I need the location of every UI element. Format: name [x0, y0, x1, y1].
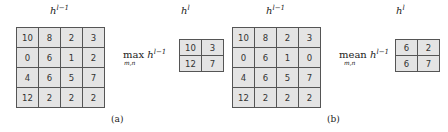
operation-name: maxm,n: [123, 49, 144, 60]
grid-cell: 10: [17, 28, 38, 47]
grid-cell: 6: [396, 40, 417, 55]
grid-cell: 3: [83, 28, 104, 47]
input-label-sup: l−1: [56, 4, 69, 12]
caption: (b): [327, 114, 340, 124]
grid-cell: 4: [233, 68, 254, 87]
output-label-sup: l: [187, 4, 189, 12]
grid-cell: 4: [17, 68, 38, 87]
grid-cell: 1: [61, 48, 82, 67]
operation-subscript: m,n: [124, 59, 135, 66]
output-label-sup: l: [402, 4, 404, 12]
grid-cell: 6: [39, 68, 60, 87]
grid-cell: 12: [180, 56, 201, 71]
grid-cell: 2: [277, 88, 298, 107]
grid-cell: 0: [233, 48, 254, 67]
caption: (a): [111, 114, 123, 124]
grid-cell: 2: [418, 40, 439, 55]
output-grid: 10 3 12 7: [179, 39, 224, 72]
grid-cell: 10: [233, 28, 254, 47]
grid-cell: 2: [83, 88, 104, 107]
grid-cell: 10: [180, 40, 201, 55]
grid-cell: 2: [299, 88, 320, 107]
max-pooling-operation: maxm,n hl−1: [123, 49, 166, 60]
grid-cell: 8: [39, 28, 60, 47]
grid-cell: 1: [277, 48, 298, 67]
grid-cell: 7: [418, 56, 439, 71]
input-label: hl−1: [266, 5, 285, 16]
output-grid: 6 2 6 7: [395, 39, 440, 72]
grid-cell: 7: [83, 68, 104, 87]
operation-operand-sup: l−1: [376, 48, 389, 56]
output-label: hl: [396, 5, 405, 16]
grid-cell: 2: [61, 88, 82, 107]
input-label: hl−1: [50, 5, 69, 16]
grid-cell: 12: [233, 88, 254, 107]
input-label-sup: l−1: [272, 4, 285, 12]
grid-cell: 3: [299, 28, 320, 47]
grid-cell: 5: [61, 68, 82, 87]
grid-cell: 8: [255, 28, 276, 47]
output-label: hl: [181, 5, 190, 16]
grid-cell: 2: [277, 28, 298, 47]
mean-pooling-operation: meanm,n hl−1: [339, 49, 389, 60]
grid-cell: 3: [202, 40, 223, 55]
grid-cell: 2: [255, 88, 276, 107]
grid-cell: 2: [61, 28, 82, 47]
operation-subscript: m,n: [344, 59, 355, 66]
input-grid: 10 8 2 3 0 6 1 0 4 6 5 7 12 2 2 2: [232, 27, 321, 108]
grid-cell: 6: [396, 56, 417, 71]
grid-cell: 0: [299, 48, 320, 67]
grid-cell: 12: [17, 88, 38, 107]
grid-cell: 0: [17, 48, 38, 67]
grid-cell: 2: [83, 48, 104, 67]
grid-cell: 2: [39, 88, 60, 107]
grid-cell: 7: [202, 56, 223, 71]
grid-cell: 7: [299, 68, 320, 87]
grid-cell: 5: [277, 68, 298, 87]
grid-cell: 6: [255, 68, 276, 87]
input-grid: 10 8 2 3 0 6 1 2 4 6 5 7 12 2 2 2: [16, 27, 105, 108]
operation-name: meanm,n: [339, 49, 367, 60]
grid-cell: 6: [255, 48, 276, 67]
operation-operand-sup: l−1: [154, 48, 167, 56]
grid-cell: 6: [39, 48, 60, 67]
